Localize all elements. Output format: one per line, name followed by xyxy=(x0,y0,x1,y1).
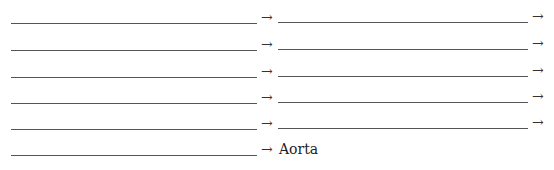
blank-line-right[interactable] xyxy=(278,49,528,50)
right-arrow-icon: → xyxy=(261,37,273,51)
flow-row-2: → → xyxy=(0,37,554,57)
blank-line-left[interactable] xyxy=(11,50,257,51)
blank-line-left[interactable] xyxy=(11,103,257,104)
right-arrow-icon: → xyxy=(261,116,273,130)
right-arrow-icon: → xyxy=(261,142,273,156)
right-arrow-icon: → xyxy=(261,90,273,104)
right-arrow-icon: → xyxy=(532,9,544,23)
flow-row-3: → → xyxy=(0,64,554,84)
blank-line-right[interactable] xyxy=(278,76,528,77)
right-arrow-icon: → xyxy=(532,115,544,129)
flow-row-6: → Aorta xyxy=(0,142,554,162)
blank-line-left[interactable] xyxy=(11,155,257,156)
blank-line-right[interactable] xyxy=(278,102,528,103)
blank-line-right[interactable] xyxy=(278,128,528,129)
final-destination-label: Aorta xyxy=(279,141,318,157)
flow-row-4: → → xyxy=(0,90,554,110)
flow-row-5: → → xyxy=(0,116,554,136)
blank-line-left[interactable] xyxy=(11,77,257,78)
right-arrow-icon: → xyxy=(261,10,273,24)
blank-line-left[interactable] xyxy=(11,23,257,24)
blank-line-right[interactable] xyxy=(278,22,528,23)
flow-row-1: → → xyxy=(0,10,554,30)
right-arrow-icon: → xyxy=(532,89,544,103)
right-arrow-icon: → xyxy=(532,63,544,77)
blank-line-left[interactable] xyxy=(11,129,257,130)
right-arrow-icon: → xyxy=(532,36,544,50)
right-arrow-icon: → xyxy=(261,64,273,78)
